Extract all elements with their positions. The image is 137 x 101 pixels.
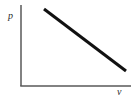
x-axis-label: v — [117, 87, 121, 97]
y-axis-label: p — [8, 11, 13, 21]
pv-diagram-figure: p v — [0, 0, 137, 101]
